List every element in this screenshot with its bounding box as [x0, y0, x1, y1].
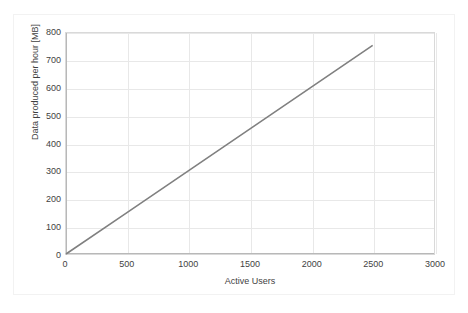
chart-frame: 0100200300400500600700800 05001000150020… — [13, 14, 455, 295]
x-tick-label: 0 — [62, 260, 67, 269]
gridline-vertical — [436, 33, 437, 254]
y-tick-label: 800 — [46, 28, 61, 37]
x-tick-label: 1000 — [178, 260, 198, 269]
series-polyline — [66, 45, 373, 254]
x-tick-label: 1500 — [240, 260, 260, 269]
y-axis-title: Data produced per hour [MB] — [30, 0, 40, 172]
x-axis-title: Active Users — [65, 276, 435, 286]
x-tick-label: 3000 — [425, 260, 445, 269]
x-tick-label: 2500 — [363, 260, 383, 269]
plot-area — [65, 32, 435, 255]
x-tick-label: 2000 — [302, 260, 322, 269]
y-tick-label: 0 — [56, 251, 61, 260]
x-axis-tick-labels: 050010001500200025003000 — [65, 260, 435, 272]
y-tick-label: 700 — [46, 55, 61, 64]
y-tick-label: 300 — [46, 167, 61, 176]
y-tick-label: 200 — [46, 195, 61, 204]
y-tick-label: 400 — [46, 139, 61, 148]
x-tick-label: 500 — [119, 260, 134, 269]
y-tick-label: 500 — [46, 111, 61, 120]
y-tick-label: 100 — [46, 223, 61, 232]
series-line-data-produced — [66, 33, 434, 254]
y-tick-label: 600 — [46, 83, 61, 92]
